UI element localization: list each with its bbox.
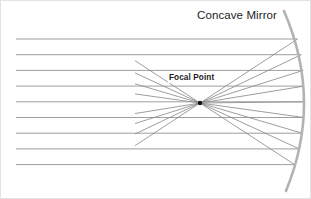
focal-point-marker <box>198 101 202 105</box>
ray-line <box>200 86 304 103</box>
ray-line <box>200 39 298 103</box>
ray-line <box>135 84 200 103</box>
ray-line <box>200 70 303 103</box>
ray-line <box>135 103 200 114</box>
ray-line <box>135 103 200 146</box>
parallel-incident-rays-group <box>16 39 304 165</box>
ray-line <box>135 103 200 124</box>
concave-mirror-title: Concave Mirror <box>197 9 277 22</box>
diagram-canvas: Concave Mirror Focal Point <box>0 0 311 199</box>
ray-line <box>200 103 295 165</box>
concave-mirror-ray-diagram <box>1 1 311 199</box>
ray-line <box>135 103 200 134</box>
ray-line <box>200 103 302 133</box>
focal-point-label: Focal Point <box>168 73 215 83</box>
